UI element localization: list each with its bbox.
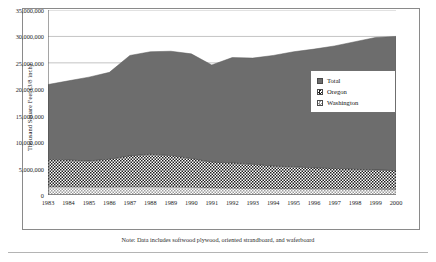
y-tick-label: 35,000,000 bbox=[0, 7, 44, 14]
x-tick-label: 1983 bbox=[42, 199, 55, 207]
x-tick-label: 1993 bbox=[246, 199, 259, 207]
x-tick-label: 1985 bbox=[83, 199, 96, 207]
legend-item-washington: Washington bbox=[317, 97, 390, 108]
x-tick-label: 2000 bbox=[390, 199, 403, 207]
legend-swatch-washington-icon bbox=[317, 100, 323, 106]
x-tick-label: 1995 bbox=[287, 199, 300, 207]
legend-swatch-total-icon bbox=[317, 78, 323, 84]
y-tick-label: 15,000,000 bbox=[0, 112, 44, 119]
x-tick-label: 1999 bbox=[369, 199, 382, 207]
y-tick-label: 5,000,000 bbox=[0, 165, 44, 172]
x-axis-tick-labels: 1983198419851986198719881989199019911992… bbox=[48, 199, 396, 211]
y-tick-label: 10,000,000 bbox=[0, 139, 44, 146]
y-tick-label: 20,000,000 bbox=[0, 86, 44, 93]
chart-footnote: Note: Data includes softwood plywood, or… bbox=[0, 236, 436, 243]
chart-figure: Thousand Square Feet (3/8 inch) 35,000,0… bbox=[0, 0, 436, 262]
y-tick-label: 25,000,000 bbox=[0, 59, 44, 66]
x-tick-label: 1990 bbox=[185, 199, 198, 207]
x-tick-label: 1992 bbox=[226, 199, 239, 207]
y-tick-label: 0 bbox=[0, 192, 44, 199]
x-tick-label: 1994 bbox=[267, 199, 280, 207]
x-tick-label: 1988 bbox=[144, 199, 157, 207]
legend-item-total: Total bbox=[317, 75, 390, 86]
legend-label-washington: Washington bbox=[327, 99, 358, 107]
x-tick-label: 1996 bbox=[308, 199, 321, 207]
x-tick-label: 1991 bbox=[205, 199, 218, 207]
bottom-divider bbox=[8, 252, 428, 253]
x-tick-label: 1997 bbox=[328, 199, 341, 207]
legend-label-total: Total bbox=[327, 77, 340, 85]
x-tick-label: 1987 bbox=[124, 199, 137, 207]
chart-legend: Total Oregon Washington bbox=[310, 70, 396, 113]
legend-item-oregon: Oregon bbox=[317, 86, 390, 97]
x-tick-label: 1986 bbox=[103, 199, 116, 207]
legend-swatch-oregon-icon bbox=[317, 89, 323, 95]
y-axis-tick-labels: 35,000,00030,000,00025,000,00020,000,000… bbox=[0, 10, 44, 195]
x-tick-label: 1998 bbox=[349, 199, 362, 207]
y-tick-label: 30,000,000 bbox=[0, 33, 44, 40]
x-tick-label: 1984 bbox=[62, 199, 75, 207]
x-tick-label: 1989 bbox=[165, 199, 178, 207]
legend-label-oregon: Oregon bbox=[327, 88, 347, 96]
